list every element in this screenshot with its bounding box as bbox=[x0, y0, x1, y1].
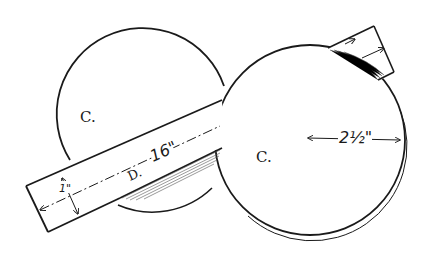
diagram-canvas: C. C. D. 16" 1" 2½" bbox=[0, 0, 425, 253]
strip-width-label: 1" bbox=[59, 182, 71, 195]
right-circle-label: C. bbox=[256, 148, 272, 166]
strip-d bbox=[26, 100, 224, 232]
left-circle-label: C. bbox=[80, 108, 96, 126]
radius-label: 2½" bbox=[339, 128, 372, 147]
